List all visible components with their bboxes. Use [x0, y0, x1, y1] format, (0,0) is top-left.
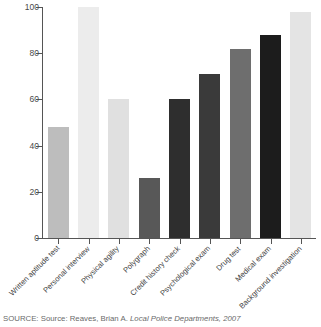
y-tick-label: 60: [0, 95, 39, 104]
bar[interactable]: [78, 7, 99, 238]
x-tick-mark: [271, 239, 272, 244]
x-category-label[interactable]: Written aptitude test: [8, 245, 61, 298]
bar[interactable]: [230, 49, 251, 238]
x-tick-mark: [149, 239, 150, 244]
x-tick-mark: [180, 239, 181, 244]
bar[interactable]: [139, 178, 160, 238]
bar[interactable]: [199, 74, 220, 238]
x-tick-mark: [210, 239, 211, 244]
bar[interactable]: [290, 12, 311, 238]
source-note-prefix: SOURCE: Source: Reaves, Brian A.: [3, 314, 130, 323]
x-tick-mark: [58, 239, 59, 244]
bar-chart-figure: 020406080100 Written aptitude testPerson…: [0, 0, 321, 327]
x-axis-line: [42, 238, 316, 239]
bars-group: [43, 7, 316, 238]
bar[interactable]: [260, 35, 281, 238]
y-tick-label: 20: [0, 188, 39, 197]
x-tick-mark: [301, 239, 302, 244]
y-tick-label: 40: [0, 142, 39, 151]
bar[interactable]: [108, 99, 129, 238]
source-note-title: Local Police Departments, 2007: [130, 314, 241, 323]
x-tick-mark: [240, 239, 241, 244]
y-tick-label: 0: [0, 234, 39, 243]
source-note: SOURCE: Source: Reaves, Brian A. Local P…: [3, 314, 318, 324]
y-tick-label: 80: [0, 49, 39, 58]
x-tick-mark: [89, 239, 90, 244]
bar[interactable]: [48, 127, 69, 238]
y-tick-label: 100: [0, 3, 39, 12]
x-tick-mark: [119, 239, 120, 244]
x-category-label[interactable]: Background investigation: [238, 245, 304, 311]
x-category-label[interactable]: Drug test: [215, 245, 242, 272]
bar[interactable]: [169, 99, 190, 238]
